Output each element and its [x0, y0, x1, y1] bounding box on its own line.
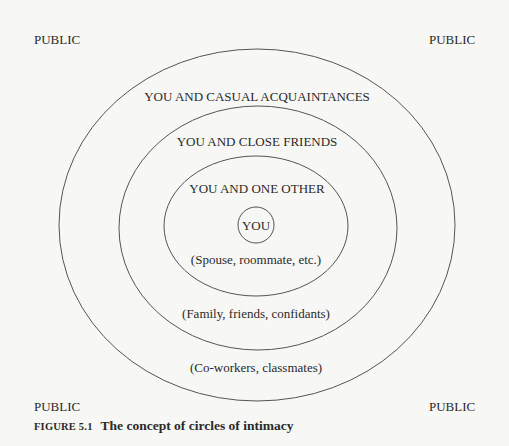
- ring-title-you: YOU: [242, 218, 270, 233]
- circles-of-intimacy-diagram: PUBLIC PUBLIC PUBLIC PUBLIC YOU AND CASU…: [0, 0, 509, 446]
- corner-label-top-left: PUBLIC: [34, 32, 80, 47]
- corner-label-bottom-right: PUBLIC: [429, 399, 475, 414]
- corner-label-bottom-left: PUBLIC: [34, 399, 80, 414]
- figure-title: The concept of circles of intimacy: [101, 418, 294, 433]
- ring-subtitle-close-friends: (Family, friends, confidants): [182, 306, 330, 321]
- ring-subtitle-casual-acquaintances: (Co-workers, classmates): [190, 360, 322, 375]
- corner-label-top-right: PUBLIC: [429, 32, 475, 47]
- ring-title-close-friends: YOU AND CLOSE FRIENDS: [177, 134, 338, 149]
- ring-title-one-other: YOU AND ONE OTHER: [189, 181, 324, 196]
- figure-caption: FIGURE 5.1 The concept of circles of int…: [34, 416, 293, 434]
- ring-title-casual-acquaintances: YOU AND CASUAL ACQUAINTANCES: [144, 89, 370, 104]
- figure-number: FIGURE 5.1: [34, 421, 93, 432]
- ring-subtitle-one-other: (Spouse, roommate, etc.): [191, 252, 321, 267]
